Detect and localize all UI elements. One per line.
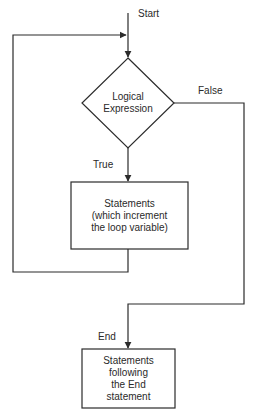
- after-loop-line-1: Statements: [103, 355, 154, 367]
- decision-line-1: Logical: [112, 91, 144, 103]
- end-label: End: [98, 331, 116, 343]
- loop-body-text: Statements (which increment the loop var…: [71, 182, 188, 249]
- true-label: True: [93, 159, 113, 171]
- after-loop-text: Statements following the End statement: [82, 349, 175, 408]
- after-loop-line-4: statement: [107, 391, 151, 403]
- loop-body-line-3: the loop variable): [91, 222, 168, 234]
- loop-body-line-1: Statements: [104, 198, 155, 210]
- decision-line-2: Expression: [103, 103, 152, 115]
- false-label: False: [198, 85, 222, 97]
- after-loop-line-2: following: [109, 367, 148, 379]
- decision-text: Logical Expression: [88, 88, 168, 118]
- after-loop-line-3: the End: [111, 379, 145, 391]
- start-label: Start: [138, 8, 159, 20]
- loop-body-line-2: (which increment: [92, 210, 168, 222]
